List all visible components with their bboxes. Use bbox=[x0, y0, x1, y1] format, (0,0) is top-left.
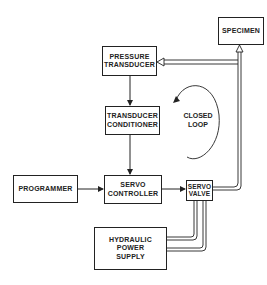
node-label-line: HYDRAULIC bbox=[109, 236, 152, 244]
node-servo-valve: SERVO VALVE bbox=[186, 180, 213, 201]
node-label-line: PRESSURE bbox=[109, 53, 149, 61]
node-transducer-conditioner: TRANSDUCER CONDITIONER bbox=[105, 106, 160, 135]
node-label-line: TRANSDUCER bbox=[107, 112, 158, 120]
edge-hydraulic-valve bbox=[167, 201, 206, 251]
node-programmer: PROGRAMMER bbox=[13, 175, 78, 203]
loop-label-line: LOOP bbox=[178, 120, 218, 129]
node-label-line: TRANSDUCER bbox=[104, 61, 155, 69]
closed-loop-label: CLOSED LOOP bbox=[178, 111, 218, 129]
node-label-line: CONDITIONER bbox=[107, 121, 158, 129]
node-pressure-transducer: PRESSURE TRANSDUCER bbox=[102, 46, 157, 76]
loop-label-line: CLOSED bbox=[178, 111, 218, 120]
node-specimen-label: SPECIMEN bbox=[222, 27, 260, 35]
node-label-line: POWER bbox=[117, 244, 144, 252]
edge-specimen-transducer bbox=[157, 58, 238, 66]
node-programmer-label: PROGRAMMER bbox=[18, 185, 72, 193]
node-label-line: SUPPLY bbox=[116, 253, 145, 261]
node-hydraulic-power-supply: HYDRAULIC POWER SUPPLY bbox=[94, 227, 167, 270]
node-specimen: SPECIMEN bbox=[218, 17, 264, 45]
node-servo-controller: SERVO CONTROLLER bbox=[104, 175, 162, 204]
node-label-line: CONTROLLER bbox=[108, 190, 159, 198]
node-label-line: SERVO bbox=[120, 181, 145, 189]
node-label-line: VALVE bbox=[189, 191, 211, 198]
